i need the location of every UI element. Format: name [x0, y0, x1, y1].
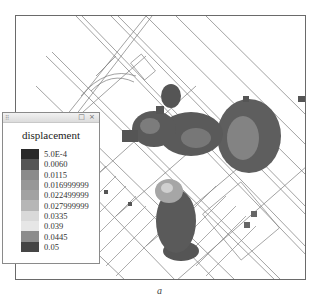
color-swatch [21, 211, 39, 221]
legend-label: 5.0E-4 [44, 149, 67, 159]
color-swatch [21, 231, 39, 241]
legend-item: 0.0115 [21, 170, 89, 180]
legend-item: 0.022499999 [21, 190, 89, 200]
color-swatch [21, 149, 39, 159]
color-swatch [21, 170, 39, 180]
legend-item: 0.016999999 [21, 180, 89, 190]
color-swatch [21, 180, 39, 190]
color-swatch [21, 190, 39, 200]
legend-label: 0.039 [44, 221, 63, 231]
legend-item: 5.0E-4 [21, 149, 89, 159]
displacement-overlay [104, 84, 306, 261]
legend-item: 0.027999999 [21, 200, 89, 210]
color-swatch [21, 221, 39, 231]
legend-label: 0.0115 [44, 170, 67, 180]
legend-item: 0.039 [21, 221, 89, 231]
legend-label: 0.027999999 [44, 201, 89, 211]
legend-label: 0.016999999 [44, 180, 89, 190]
legend-item: 0.0060 [21, 159, 89, 169]
legend-label: 0.05 [44, 242, 59, 252]
color-swatch [21, 200, 39, 210]
legend-titlebar[interactable]: ⠿ □ × [3, 113, 99, 123]
legend-label: 0.0335 [44, 211, 67, 221]
legend-title: displacement [3, 128, 99, 142]
legend-label: 0.022499999 [44, 190, 89, 200]
legend-item: 0.0335 [21, 211, 89, 221]
legend-item: 0.0445 [21, 231, 89, 241]
color-swatch [21, 159, 39, 169]
legend-items: 5.0E-4 0.0060 0.0115 0.016999999 0.02249… [21, 149, 89, 252]
legend-label: 0.0445 [44, 232, 67, 242]
maximize-close-icons[interactable]: □ × [78, 113, 96, 122]
legend-item: 0.05 [21, 242, 89, 252]
legend-label: 0.0060 [44, 159, 67, 169]
figure-caption: a [157, 285, 162, 296]
color-swatch [21, 242, 39, 252]
legend-panel[interactable]: ⠿ □ × displacement 5.0E-4 0.0060 0.0115 … [2, 112, 100, 264]
drag-grip-icon[interactable]: ⠿ [5, 114, 9, 121]
